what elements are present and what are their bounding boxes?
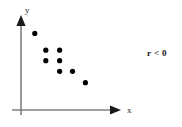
data-point xyxy=(57,58,62,63)
y-axis-arrow-icon xyxy=(16,15,25,26)
data-point xyxy=(57,48,62,53)
data-point xyxy=(43,48,48,53)
data-point xyxy=(70,69,75,74)
x-axis-group xyxy=(12,105,121,114)
y-axis-label: y xyxy=(25,6,30,15)
data-point xyxy=(43,58,48,63)
correlation-annotation: r < 0 xyxy=(147,48,167,58)
y-axis-group xyxy=(16,15,25,115)
x-axis-arrow-icon xyxy=(110,105,121,114)
data-point xyxy=(57,69,62,74)
data-point xyxy=(32,31,37,36)
data-point xyxy=(83,80,88,85)
plot-canvas xyxy=(0,0,182,127)
scatter-plot-figure: y x r < 0 xyxy=(0,0,182,127)
data-points-group xyxy=(32,31,88,85)
x-axis-label: x xyxy=(127,106,132,115)
